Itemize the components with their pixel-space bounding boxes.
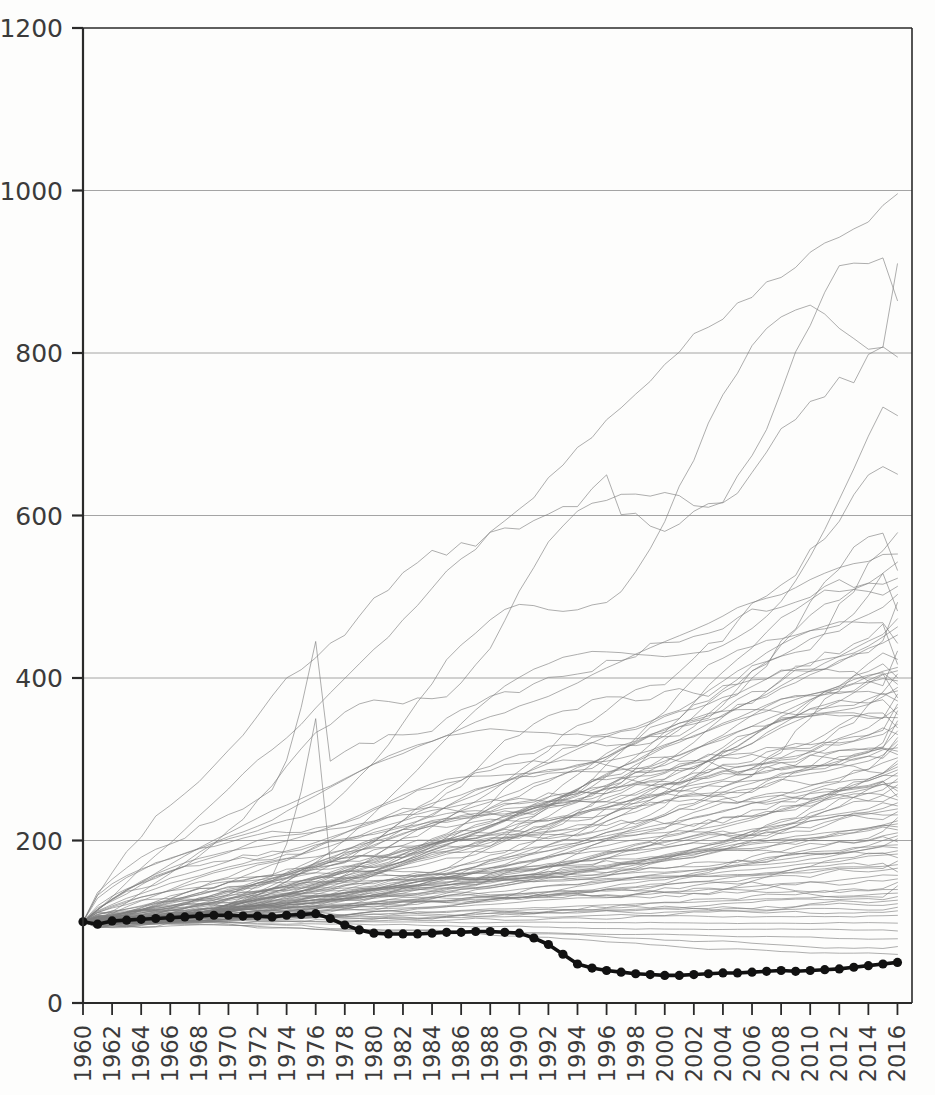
highlight-marker xyxy=(224,911,233,920)
highlight-marker xyxy=(718,968,727,977)
highlight-marker xyxy=(486,927,495,936)
x-tick-label-1998: 1998 xyxy=(623,1025,649,1082)
highlight-marker xyxy=(704,969,713,978)
x-tick-label-1988: 1988 xyxy=(477,1025,503,1082)
x-tick-label-1968: 1968 xyxy=(186,1025,212,1082)
x-tick-label-1986: 1986 xyxy=(448,1025,474,1082)
y-tick-label-1000: 1000 xyxy=(0,177,63,206)
y-tick-label-1200: 1200 xyxy=(0,14,63,43)
x-tick-label-1996: 1996 xyxy=(594,1025,620,1082)
highlight-marker xyxy=(311,909,320,918)
highlight-marker xyxy=(893,958,902,967)
x-tick-label-2012: 2012 xyxy=(826,1025,852,1082)
highlight-marker xyxy=(398,929,407,938)
highlight-marker xyxy=(253,911,262,920)
highlight-marker xyxy=(617,968,626,977)
highlight-marker xyxy=(122,916,131,925)
highlight-marker xyxy=(166,913,175,922)
highlight-marker xyxy=(558,950,567,959)
highlight-marker xyxy=(733,968,742,977)
highlight-marker xyxy=(282,911,291,920)
highlight-marker xyxy=(631,969,640,978)
x-tick-label-1978: 1978 xyxy=(332,1025,358,1082)
highlight-marker xyxy=(864,961,873,970)
x-tick-label-2008: 2008 xyxy=(768,1025,794,1082)
x-tick-label-1966: 1966 xyxy=(157,1025,183,1082)
highlight-marker xyxy=(151,914,160,923)
highlight-marker xyxy=(355,925,364,934)
highlight-marker xyxy=(777,966,786,975)
highlight-marker xyxy=(544,940,553,949)
highlight-marker xyxy=(587,963,596,972)
highlight-marker xyxy=(442,928,451,937)
highlight-marker xyxy=(413,929,422,938)
highlight-marker xyxy=(747,968,756,977)
x-tick-label-2002: 2002 xyxy=(681,1025,707,1082)
highlight-marker xyxy=(791,967,800,976)
highlight-marker xyxy=(340,920,349,929)
y-tick-label-600: 600 xyxy=(15,502,63,531)
x-tick-label-1982: 1982 xyxy=(390,1025,416,1082)
x-tick-label-2006: 2006 xyxy=(739,1025,765,1082)
y-tick-label-0: 0 xyxy=(47,989,63,1018)
highlight-marker xyxy=(471,927,480,936)
y-tick-label-800: 800 xyxy=(15,339,63,368)
highlight-marker xyxy=(762,967,771,976)
spaghetti-line-chart: 0200400600800100012001960196219641966196… xyxy=(0,0,935,1095)
highlight-marker xyxy=(93,920,102,929)
highlight-marker xyxy=(195,911,204,920)
highlight-marker xyxy=(180,912,189,921)
x-tick-label-2004: 2004 xyxy=(710,1025,736,1082)
highlight-marker xyxy=(457,928,466,937)
x-tick-label-1962: 1962 xyxy=(99,1025,125,1082)
highlight-marker xyxy=(500,928,509,937)
highlight-marker xyxy=(297,910,306,919)
highlight-marker xyxy=(835,964,844,973)
x-tick-label-1994: 1994 xyxy=(564,1025,590,1082)
y-tick-label-400: 400 xyxy=(15,664,63,693)
x-tick-label-1964: 1964 xyxy=(128,1025,154,1082)
highlight-marker xyxy=(660,971,669,980)
y-tick-label-200: 200 xyxy=(15,827,63,856)
x-tick-label-1960: 1960 xyxy=(70,1025,96,1082)
highlight-marker xyxy=(238,911,247,920)
x-tick-label-1976: 1976 xyxy=(303,1025,329,1082)
x-tick-label-1974: 1974 xyxy=(274,1025,300,1082)
highlight-marker xyxy=(427,929,436,938)
highlight-marker xyxy=(326,914,335,923)
highlight-marker xyxy=(820,965,829,974)
highlight-marker xyxy=(137,915,146,924)
highlight-marker xyxy=(384,929,393,938)
x-tick-label-1992: 1992 xyxy=(535,1025,561,1082)
highlight-marker xyxy=(573,959,582,968)
highlight-marker xyxy=(369,929,378,938)
x-tick-label-1984: 1984 xyxy=(419,1025,445,1082)
x-tick-label-1970: 1970 xyxy=(215,1025,241,1082)
x-tick-label-1972: 1972 xyxy=(245,1025,271,1082)
x-tick-label-2016: 2016 xyxy=(884,1025,910,1082)
highlight-marker xyxy=(675,971,684,980)
highlight-marker xyxy=(529,933,538,942)
highlight-marker xyxy=(602,966,611,975)
highlight-marker xyxy=(689,970,698,979)
highlight-marker xyxy=(107,916,116,925)
highlight-marker xyxy=(646,970,655,979)
highlight-marker xyxy=(849,963,858,972)
x-tick-label-1980: 1980 xyxy=(361,1025,387,1082)
x-tick-label-1990: 1990 xyxy=(506,1025,532,1082)
x-tick-label-2014: 2014 xyxy=(855,1025,881,1082)
highlight-marker xyxy=(878,959,887,968)
highlight-marker xyxy=(515,929,524,938)
highlight-marker xyxy=(267,912,276,921)
chart-figure: 0200400600800100012001960196219641966196… xyxy=(0,0,935,1095)
x-tick-label-2010: 2010 xyxy=(797,1025,823,1082)
highlight-marker xyxy=(209,911,218,920)
highlight-marker xyxy=(806,966,815,975)
x-tick-label-2000: 2000 xyxy=(652,1025,678,1082)
